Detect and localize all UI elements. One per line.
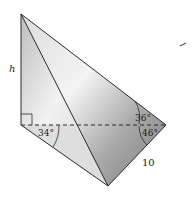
- angle-46-label: 46°: [142, 128, 158, 138]
- height-label: h: [9, 63, 15, 74]
- pyramid-diagram: h 34° 36° 46° 10: [0, 0, 194, 197]
- angle-36-label: 36°: [135, 113, 151, 123]
- side-length-label: 10: [142, 157, 155, 168]
- angle-34-label: 34°: [38, 128, 54, 138]
- stray-mark: [180, 43, 186, 46]
